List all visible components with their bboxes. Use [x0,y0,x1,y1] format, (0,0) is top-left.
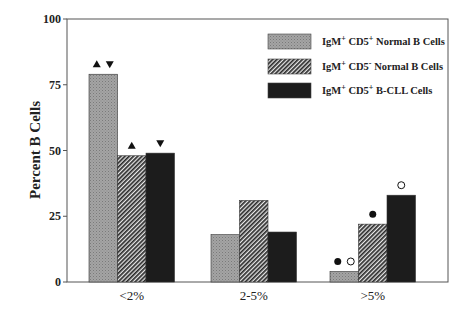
bar [359,224,388,282]
bar [118,156,147,282]
triangle-up-icon [93,60,101,67]
y-tick-label: 75 [49,78,61,92]
bar [146,153,175,282]
bar-chart: 0255075100 <2%2-5%>5% IgM+ CD5+ Normal B… [0,0,462,312]
bar [268,232,297,282]
legend-swatch [268,34,311,49]
x-axis: <2%2-5%>5% [119,288,385,303]
bar [89,74,118,282]
bar [211,235,240,282]
legend-swatch [268,83,311,98]
y-tick-label: 50 [49,144,61,158]
y-axis-label: Percent B Cells [27,101,43,199]
triangle-up-icon [128,142,136,149]
y-tick-label: 0 [55,275,61,289]
triangle-down-icon [106,61,114,68]
legend-label: IgM+ CD5+ B-CLL Cells [322,83,432,96]
y-tick-label: 25 [49,209,61,223]
legend-label: IgM+ CD5+ Normal B Cells [322,34,445,47]
legend: IgM+ CD5+ Normal B CellsIgM+ CD5- Normal… [268,34,445,98]
x-tick-label: 2-5% [240,288,268,303]
legend-item: IgM+ CD5+ Normal B Cells [268,34,445,49]
bar [387,195,416,282]
legend-item: IgM+ CD5- Normal B Cells [268,59,443,74]
legend-swatch [268,59,311,74]
open-circle-icon [347,258,354,265]
y-axis: 0255075100 [43,12,67,289]
filled-circle-icon [369,211,376,218]
x-tick-label: >5% [360,288,385,303]
triangle-down-icon [156,140,164,147]
legend-label: IgM+ CD5- Normal B Cells [322,59,443,72]
x-tick-label: <2% [119,288,144,303]
open-circle-icon [398,182,405,189]
filled-circle-icon [334,258,341,265]
bar [240,200,269,282]
y-tick-label: 100 [43,12,61,26]
bar [330,271,359,282]
bars [89,74,416,282]
legend-item: IgM+ CD5+ B-CLL Cells [268,83,432,98]
